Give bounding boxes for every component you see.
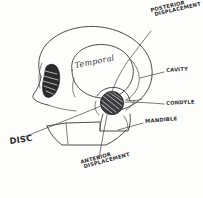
mandible-outline: [47, 114, 130, 145]
tmj-sketch-figure: Posterior Displacement Cavity Condyle Ma…: [0, 0, 203, 198]
orbit-marking: [39, 63, 60, 97]
leader-disc: [24, 106, 101, 137]
zygomatic-arch: [126, 60, 142, 101]
leader-mandible: [118, 123, 143, 130]
leader-posterior-displacement: [110, 31, 151, 97]
leader-condyle: [125, 102, 164, 104]
